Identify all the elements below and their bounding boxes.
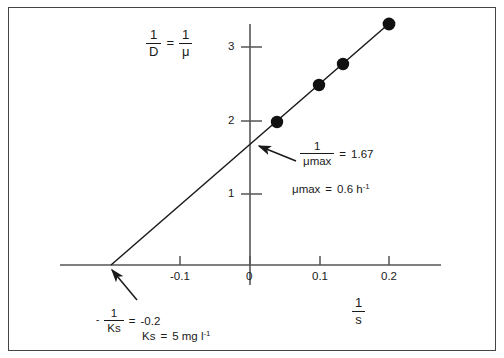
y-tick-label-3: 3	[228, 40, 234, 52]
x-axis-ticks	[180, 256, 389, 265]
ks-line-value: 5 mg l-1	[172, 330, 210, 342]
equation-rhs-fraction: 1 μ	[179, 28, 193, 58]
figure-container: -0.1 0 0.1 0.2 1 2 3 1 D = 1 μ 1 μmax = …	[0, 0, 504, 358]
x-axis-label-fraction: 1 s	[352, 296, 365, 326]
x-tick-label-01: 0.1	[312, 270, 328, 282]
x-intercept-arrow	[112, 270, 137, 300]
mumax-value-annotation: μmax = 0.6 h-1	[292, 183, 370, 195]
equation-rhs-denominator: μ	[179, 43, 193, 59]
ks-fraction: 1 Ks	[104, 307, 123, 334]
plot-canvas	[0, 0, 504, 358]
mumax-fraction-numerator: 1	[300, 140, 334, 153]
x-tick-label-neg01: -0.1	[170, 270, 190, 282]
ks-fraction-numerator: 1	[104, 307, 123, 320]
mumax-label: μmax	[292, 183, 320, 195]
main-equation: 1 D = 1 μ	[146, 28, 192, 58]
x-axis-label: 1 s	[352, 296, 365, 326]
mumax-fraction: 1 μmax	[300, 140, 334, 167]
mumax-number: 0.6 h	[337, 183, 363, 195]
mumax-fraction-denominator: μmax	[300, 153, 334, 167]
y-intercept-annotation: 1 μmax = 1.67	[300, 140, 373, 167]
equation-lhs-numerator: 1	[146, 28, 161, 43]
ks-label: Ks	[142, 330, 155, 342]
equation-lhs-fraction: 1 D	[146, 28, 161, 58]
mumax-value: 1.67	[351, 148, 373, 160]
y-axis-ticks	[241, 47, 262, 194]
x-axis-label-numerator: 1	[352, 296, 365, 311]
mumax-equals-sign: =	[339, 148, 346, 160]
x-axis-label-denominator: s	[352, 311, 365, 327]
y-intercept-arrow	[259, 146, 296, 161]
equation-rhs-numerator: 1	[179, 28, 193, 43]
equation-equals-sign: =	[166, 36, 174, 50]
data-point	[271, 116, 283, 128]
mumax-line-equals: =	[325, 183, 332, 195]
mumax-denominator-mu: μmax	[303, 155, 331, 167]
ks-minus-sign: -	[96, 315, 99, 326]
ks-value: -0.2	[140, 315, 160, 327]
x-tick-label-zero: 0	[246, 270, 252, 282]
mumax-exponent: -1	[363, 182, 370, 191]
ks-value-annotation: Ks = 5 mg l-1	[142, 330, 210, 342]
data-point	[337, 58, 349, 70]
mumax-line-value: 0.6 h-1	[337, 183, 370, 195]
ks-denominator-label: Ks	[107, 322, 120, 334]
ks-equals-sign: =	[129, 315, 136, 327]
data-point	[383, 18, 396, 31]
y-tick-label-2: 2	[228, 114, 234, 126]
ks-number: 5 mg l	[172, 330, 203, 342]
equation-lhs-denominator: D	[146, 43, 161, 59]
data-point	[313, 79, 325, 91]
ks-fraction-denominator: Ks	[104, 320, 123, 334]
ks-line-equals: =	[160, 330, 167, 342]
y-tick-label-1: 1	[228, 187, 234, 199]
ks-exponent: -1	[203, 329, 210, 338]
x-tick-label-02: 0.2	[381, 270, 397, 282]
